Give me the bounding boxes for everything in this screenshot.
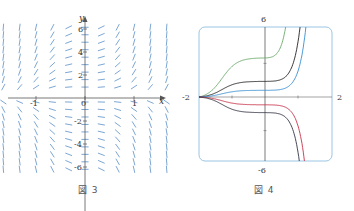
y-tick-label: -4 [74, 140, 82, 149]
slope-segment [115, 78, 121, 81]
slope-segment [116, 55, 120, 60]
slope-segment [19, 62, 21, 68]
slope-segment [150, 166, 151, 172]
slope-segment [49, 116, 55, 119]
x-tick-label: 0 [81, 99, 86, 108]
y-tick-label: -2 [74, 117, 82, 126]
slope-segment [19, 54, 20, 60]
slope-segment [66, 139, 72, 141]
slope-segment [2, 114, 4, 120]
slope-segment [148, 107, 152, 112]
slope-segment [131, 108, 136, 112]
slope-segment [3, 24, 4, 30]
slope-segment [98, 146, 104, 148]
slope-segment [116, 152, 119, 157]
slope-segment [150, 151, 151, 157]
slope-segment [150, 144, 151, 150]
slope-segment [50, 70, 55, 74]
slope-segment [50, 62, 55, 66]
x-tick-label: 1 [132, 99, 137, 108]
slope-segment [19, 69, 21, 75]
slope-segment [132, 77, 136, 82]
slope-segment [66, 41, 72, 43]
slope-segment [166, 151, 167, 157]
slope-segment [35, 136, 37, 142]
slope-segment [66, 153, 72, 155]
slope-segment [116, 47, 120, 52]
slope-segment [3, 136, 4, 142]
slope-segment [115, 130, 120, 134]
y-axis-label: y [78, 13, 85, 23]
slope-segment [133, 144, 135, 150]
slope-segment [3, 61, 4, 67]
slope-segment [66, 64, 72, 65]
slope-segment [165, 107, 168, 113]
slope-segment [149, 114, 152, 120]
slope-segment [35, 47, 37, 53]
slope-segment [132, 115, 136, 120]
figure-3-direction-field: -2-1012-6-4-2246 y x 図 3 [0, 0, 177, 211]
slope-segment [147, 101, 153, 104]
slope-segment [115, 123, 120, 127]
solution-curve-black-lower [199, 97, 301, 175]
slope-segment [2, 84, 5, 90]
slope-segment [98, 64, 104, 65]
slope-segment [150, 32, 151, 38]
slope-segment [98, 49, 104, 51]
slope-segment [166, 77, 168, 83]
slope-segment [116, 144, 120, 149]
slope-segment [133, 47, 135, 53]
slope-segment [133, 129, 136, 135]
slope-segment [166, 114, 168, 120]
slope-segment [50, 137, 54, 142]
slope-segment [115, 116, 121, 119]
solution-curve-red [199, 97, 307, 175]
slope-segment [116, 137, 120, 142]
slope-segment [150, 159, 151, 165]
slope-segment [166, 144, 167, 150]
slope-segment [149, 69, 151, 75]
slope-segment [3, 166, 4, 172]
slope-segment [35, 144, 37, 150]
slope-segment [149, 77, 152, 83]
y-tick-label: 4 [78, 48, 83, 57]
slope-segment [35, 151, 37, 157]
slope-segment [166, 69, 167, 75]
slope-segment [166, 24, 167, 30]
slope-segment [66, 124, 72, 125]
slope-segment [133, 151, 135, 157]
slope-segment [18, 114, 21, 120]
slope-segment [3, 69, 4, 75]
slope-segment [19, 151, 20, 157]
slope-segment [116, 32, 119, 38]
slope-segment [51, 40, 55, 45]
slope-segment [115, 70, 120, 74]
slope-segment [66, 131, 72, 132]
slope-segment [98, 139, 104, 141]
slope-segment [50, 47, 54, 52]
slope-segment [19, 136, 20, 142]
slope-segment [3, 121, 4, 127]
slope-segment [66, 56, 72, 58]
slope-segment [98, 117, 104, 118]
slope-segment [51, 32, 54, 38]
slope-segment [115, 62, 120, 66]
slope-segment [132, 69, 135, 74]
slope-segment [150, 39, 151, 45]
slope-segment [50, 123, 55, 127]
slope-segment [166, 54, 167, 60]
slope-segment [3, 151, 4, 157]
slope-segment [165, 84, 168, 90]
slope-segment [2, 77, 4, 83]
slope-segment [166, 136, 167, 142]
slope-segment [3, 144, 4, 150]
slope-segment [65, 79, 71, 80]
slope-segment [166, 47, 167, 53]
slope-segment [34, 122, 37, 127]
slope-segment [35, 166, 36, 172]
slope-segment [98, 79, 104, 80]
slope-segment [166, 166, 167, 172]
slope-segment [166, 129, 167, 135]
solution-curve-black-upper [199, 19, 301, 97]
slope-segment [33, 108, 38, 112]
